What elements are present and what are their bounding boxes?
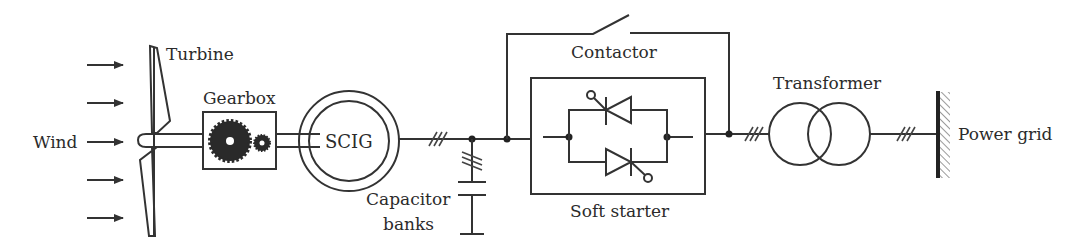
wind-label: Wind: [33, 132, 78, 152]
soft-starter-icon: [531, 78, 705, 194]
gearbox-label: Gearbox: [203, 88, 276, 108]
transformer-icon: [769, 103, 870, 165]
capacitor-label-2: banks: [383, 214, 434, 234]
node-dot: [726, 131, 733, 138]
capacitor-bank-icon: [458, 139, 486, 234]
turbine-label: Turbine: [166, 44, 234, 64]
power-grid-label: Power grid: [958, 124, 1053, 144]
contactor-label: Contactor: [571, 42, 658, 62]
scig-label: SCIG: [325, 131, 373, 152]
turbine-icon: [138, 46, 203, 236]
soft-starter-label: Soft starter: [570, 201, 670, 221]
transformer-label: Transformer: [773, 73, 882, 93]
power-grid-icon: [938, 91, 950, 178]
wind-arrows: [87, 65, 123, 218]
capacitor-label: Capacitor: [366, 189, 451, 209]
wind-turbine-diagram: Wind Turbine Gearbox SCIG: [0, 0, 1085, 251]
